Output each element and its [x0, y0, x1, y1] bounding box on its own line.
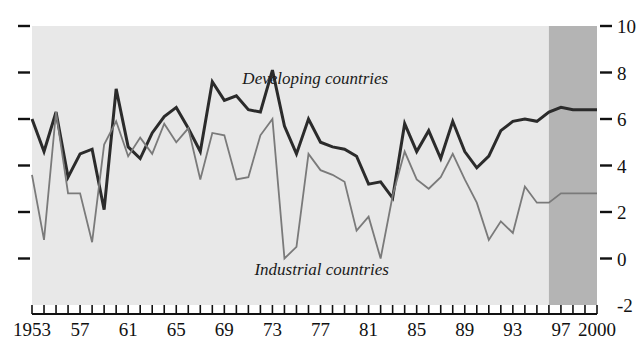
x-axis-tick-label: 77 [311, 319, 330, 340]
y-axis-tick-label: 2 [617, 202, 627, 223]
y-axis-tick-label: -2 [617, 295, 633, 316]
projection-shaded-region [549, 26, 597, 305]
x-axis-tick-label: 73 [263, 319, 282, 340]
y-axis-tick-label: 0 [617, 249, 627, 270]
chart-figure: -20246810195357616569737781858993972000D… [0, 0, 644, 361]
x-axis-tick-label: 61 [119, 319, 138, 340]
x-axis-tick-label: 85 [407, 319, 426, 340]
x-axis-tick-label: 57 [71, 319, 90, 340]
y-axis-tick-label: 10 [617, 16, 636, 37]
y-axis-tick-label: 8 [617, 63, 627, 84]
x-axis-tick-label: 89 [455, 319, 474, 340]
y-axis-tick-label: 6 [617, 109, 627, 130]
x-axis-tick-label: 97 [551, 319, 570, 340]
series-annotation-industrial-countries: Industrial countries [253, 260, 389, 279]
line-chart: -20246810195357616569737781858993972000D… [0, 0, 644, 361]
series-annotation-developing-countries: Developing countries [241, 69, 388, 88]
x-axis-tick-label: 2000 [578, 319, 616, 340]
y-axis-tick-label: 4 [617, 156, 627, 177]
x-axis-tick-label: 81 [359, 319, 378, 340]
x-axis-tick-label: 1953 [13, 319, 51, 340]
x-axis-tick-label: 65 [167, 319, 186, 340]
x-axis-tick-label: 69 [215, 319, 234, 340]
x-axis-tick-label: 93 [503, 319, 522, 340]
